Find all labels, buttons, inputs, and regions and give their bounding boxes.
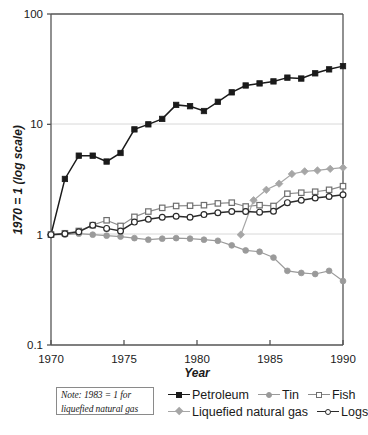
legend-row-1: Petroleum Tin Fish	[168, 386, 366, 403]
data-point	[132, 219, 138, 225]
data-point	[173, 203, 178, 208]
data-point	[229, 209, 235, 215]
series-fish	[48, 183, 345, 237]
data-point	[215, 201, 220, 206]
data-point	[201, 212, 207, 218]
series-logs	[48, 192, 346, 238]
gridlines	[51, 124, 343, 234]
data-point	[146, 122, 151, 127]
legend-item-logs[interactable]: Logs	[317, 405, 368, 419]
y-tick-label: 10	[30, 118, 43, 130]
y-tick-label: 100	[24, 8, 43, 20]
x-tick-label: 1985	[257, 353, 283, 365]
data-point	[62, 231, 68, 237]
data-point	[215, 99, 220, 104]
data-point	[339, 164, 346, 171]
legend-label-petroleum: Petroleum	[192, 388, 249, 402]
data-point	[312, 271, 318, 277]
data-point	[132, 127, 137, 132]
data-point	[104, 159, 109, 164]
data-point	[326, 194, 332, 200]
data-point	[229, 90, 234, 95]
x-tick-label: 1970	[38, 353, 64, 365]
data-point	[90, 232, 96, 238]
data-point	[299, 76, 304, 81]
data-point	[146, 209, 151, 214]
data-point	[104, 233, 110, 239]
data-point	[326, 268, 332, 274]
legend-swatch-logs	[317, 406, 339, 417]
y-axis-title: 1970 = 1 (log scale)	[11, 125, 25, 235]
data-point	[215, 238, 221, 244]
legend-item-liquefied-natural-gas[interactable]: Liquefied natural gas	[168, 405, 308, 419]
data-point	[326, 67, 331, 72]
data-series-layer	[48, 63, 347, 284]
data-point	[285, 191, 290, 196]
legend-label-fish: Fish	[332, 388, 356, 402]
note-box: Note: 1983 = 1 for liquefied natural gas	[56, 387, 154, 415]
data-point	[187, 103, 192, 108]
data-point	[243, 83, 248, 88]
data-point	[340, 192, 346, 198]
x-axis-title: Year	[184, 366, 211, 380]
data-point	[257, 209, 263, 215]
data-point	[173, 235, 179, 241]
chart-legend: Petroleum Tin Fish Liquefied natural	[168, 386, 366, 420]
data-point	[285, 75, 290, 80]
data-point	[173, 102, 178, 107]
line-chart-svg: 1001010.1 19701975198019851990 1970 = 1 …	[0, 0, 366, 380]
data-point	[237, 231, 244, 238]
data-point	[187, 236, 193, 242]
data-point	[76, 229, 82, 235]
data-point	[201, 202, 206, 207]
data-point	[160, 205, 165, 210]
data-point	[271, 79, 276, 84]
legend-row-2: Liquefied natural gas Logs	[168, 403, 366, 420]
data-point	[326, 187, 331, 192]
legend-label-logs: Logs	[341, 405, 368, 419]
legend-swatch-liquefied-natural-gas	[168, 406, 190, 417]
data-point	[145, 237, 151, 243]
legend-swatch-tin	[258, 389, 280, 400]
data-point	[104, 218, 109, 223]
data-point	[284, 200, 290, 206]
data-point	[145, 216, 151, 222]
data-point	[340, 183, 345, 188]
data-point	[90, 222, 96, 228]
data-point	[271, 255, 277, 261]
legend-swatch-petroleum	[168, 389, 190, 400]
data-point	[312, 189, 317, 194]
data-point	[257, 249, 263, 255]
data-point	[201, 237, 207, 243]
data-point	[48, 232, 54, 238]
x-tick-label: 1990	[330, 353, 356, 365]
series-line	[51, 66, 343, 235]
data-point	[118, 228, 124, 234]
x-tick-label: 1980	[184, 353, 210, 365]
data-point	[90, 153, 95, 158]
data-point	[301, 168, 308, 175]
data-point	[284, 268, 290, 274]
data-point	[298, 197, 304, 203]
axes-frame	[51, 14, 343, 345]
data-point	[312, 195, 318, 201]
data-point	[159, 214, 165, 220]
data-point	[104, 225, 110, 231]
data-point	[257, 202, 262, 207]
data-point	[314, 167, 321, 174]
data-point	[76, 153, 81, 158]
x-tick-label: 1975	[111, 353, 137, 365]
legend-item-tin[interactable]: Tin	[258, 388, 299, 402]
data-point	[243, 209, 249, 215]
data-point	[271, 208, 277, 214]
legend-item-petroleum[interactable]: Petroleum	[168, 388, 249, 402]
x-axis-ticks: 19701975198019851990	[38, 340, 356, 365]
data-point	[62, 176, 67, 181]
legend-item-fish[interactable]: Fish	[308, 388, 356, 402]
series-petroleum	[48, 63, 345, 237]
data-point	[187, 214, 193, 220]
data-point	[201, 108, 206, 113]
note-line-1: Note: 1983 = 1 for	[57, 388, 153, 402]
legend-label-tin: Tin	[282, 388, 299, 402]
